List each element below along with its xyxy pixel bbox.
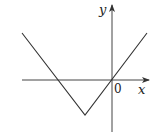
x-axis-label: x	[138, 83, 145, 96]
graph-svg	[0, 0, 155, 135]
function-graph-diagram: y 0 x	[0, 0, 155, 135]
v-graph-line	[22, 33, 147, 115]
y-axis-label: y	[99, 3, 106, 16]
origin-label: 0	[114, 83, 122, 95]
